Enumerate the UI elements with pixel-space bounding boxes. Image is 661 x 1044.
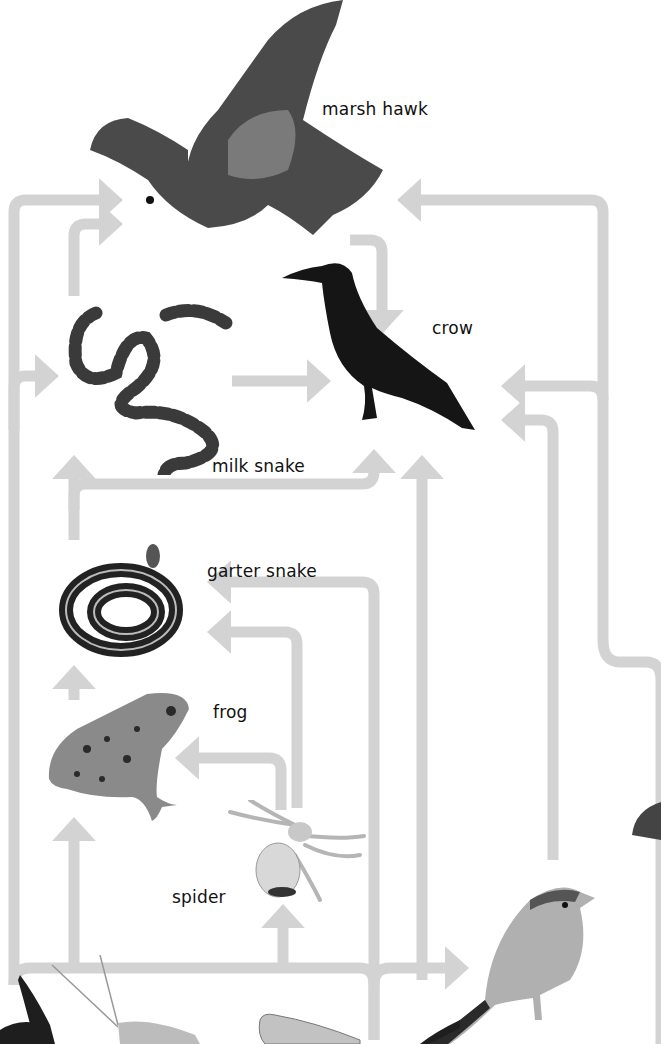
rail-right-lower <box>603 640 661 1044</box>
frog-image <box>47 689 192 824</box>
crow-image <box>282 258 477 433</box>
label-milk-snake: milk snake <box>212 456 305 476</box>
arrow-right-rail-to-crow <box>512 386 603 400</box>
arrow-sparrow-to-crow <box>512 420 553 860</box>
partial-organism-right-image <box>630 800 661 840</box>
arrow-outer-left-to-milksnake <box>14 376 48 430</box>
spider-image <box>220 800 368 905</box>
label-spider: spider <box>172 887 226 907</box>
label-frog: frog <box>213 702 248 722</box>
label-crow: crow <box>432 318 473 338</box>
partial-organism-bottom-image <box>420 1020 460 1044</box>
food-web-diagram: marsh hawk crow milk snake garter snake <box>0 0 661 1044</box>
grasshopper-image <box>0 955 200 1044</box>
milk-snake-image <box>66 303 236 475</box>
garter-snake-image <box>56 540 196 660</box>
label-marsh-hawk: marsh hawk <box>322 99 428 119</box>
caterpillar-image <box>255 1010 365 1044</box>
label-garter-snake: garter snake <box>207 561 317 581</box>
